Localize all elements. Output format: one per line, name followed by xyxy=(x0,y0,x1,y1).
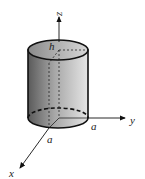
radius-y-label: a xyxy=(91,120,97,132)
y-axis-label: y xyxy=(129,114,135,126)
x-axis-label: x xyxy=(8,167,14,179)
height-label: h xyxy=(49,40,55,52)
cylinder-diagram: z h y a a x xyxy=(0,0,145,179)
cylinder-body xyxy=(28,50,88,128)
z-axis-label: z xyxy=(52,11,64,17)
x-axis xyxy=(20,128,49,168)
radius-x-label: a xyxy=(47,133,53,145)
